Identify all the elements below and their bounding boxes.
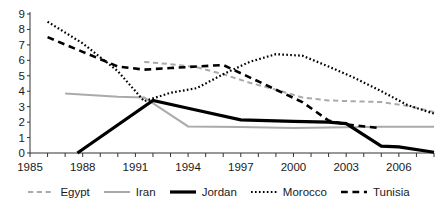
y-tick-label: 3 xyxy=(19,101,25,113)
x-tick-label: 1994 xyxy=(175,161,201,172)
line-chart: 0123456789198519881991199419972000200320… xyxy=(0,0,437,208)
x-tick-label: 1988 xyxy=(70,161,96,172)
y-tick-label: 6 xyxy=(19,54,25,66)
y-tick-label: 8 xyxy=(19,23,25,35)
plot-area: 0123456789198519881991199419972000200320… xyxy=(0,0,437,172)
legend-label: Jordan xyxy=(202,186,237,198)
legend-item-jordan[interactable]: Jordan xyxy=(169,186,237,198)
x-tick-label: 1997 xyxy=(228,161,254,172)
legend-swatch-egypt xyxy=(27,187,55,197)
x-tick-label: 2000 xyxy=(281,161,307,172)
legend-swatch-morocco xyxy=(250,187,278,197)
y-tick-label: 9 xyxy=(19,8,25,20)
series-line-egypt xyxy=(144,62,434,112)
legend-label: Egypt xyxy=(60,186,89,198)
x-tick-label: 1985 xyxy=(17,161,43,172)
legend-item-iran[interactable]: Iran xyxy=(103,186,156,198)
y-tick-label: 2 xyxy=(19,116,25,128)
legend-item-morocco[interactable]: Morocco xyxy=(250,186,327,198)
series-line-morocco xyxy=(48,22,434,114)
legend-label: Iran xyxy=(136,186,156,198)
x-tick-label: 2003 xyxy=(333,161,359,172)
legend-swatch-tunisia xyxy=(340,187,368,197)
y-tick-label: 0 xyxy=(19,147,25,159)
legend-item-tunisia[interactable]: Tunisia xyxy=(340,186,410,198)
y-tick-label: 4 xyxy=(19,85,26,97)
x-tick-label: 2006 xyxy=(386,161,412,172)
x-tick-label: 1991 xyxy=(123,161,149,172)
chart-legend: EgyptIranJordanMoroccoTunisia xyxy=(0,176,437,208)
legend-item-egypt[interactable]: Egypt xyxy=(27,186,89,198)
legend-swatch-iran xyxy=(103,187,131,197)
y-tick-label: 5 xyxy=(19,70,25,82)
chart-canvas: 0123456789198519881991199419972000200320… xyxy=(0,0,437,172)
legend-label: Tunisia xyxy=(373,186,410,198)
legend-swatch-jordan xyxy=(169,187,197,197)
y-tick-label: 7 xyxy=(19,39,25,51)
legend-label: Morocco xyxy=(283,186,327,198)
y-tick-label: 1 xyxy=(19,132,25,144)
